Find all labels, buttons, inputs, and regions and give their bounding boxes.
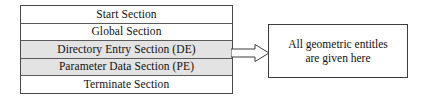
note-box: All geometric entitles are given here: [268, 24, 408, 78]
note-line: All geometric entitles: [288, 37, 388, 51]
section-row-label: Global Section: [91, 26, 161, 38]
table-row[interactable]: Parameter Data Section (PE): [21, 59, 232, 77]
section-row-label: Start Section: [96, 9, 156, 21]
table-row[interactable]: Directory Entry Section (DE): [21, 41, 232, 59]
section-row-label: Terminate Section: [84, 79, 170, 91]
table-row[interactable]: Global Section: [21, 24, 232, 42]
iges-structure-diagram: Start Section Global Section Directory E…: [0, 0, 424, 100]
note-line: are given here: [305, 51, 370, 65]
section-table: Start Section Global Section Directory E…: [20, 5, 233, 94]
connector-arrow: [231, 42, 271, 64]
section-row-label: Directory Entry Section (DE): [57, 44, 196, 56]
right-block-arrow-icon: [231, 42, 271, 64]
table-row[interactable]: Terminate Section: [21, 76, 232, 93]
section-row-label: Parameter Data Section (PE): [59, 61, 194, 73]
table-row[interactable]: Start Section: [21, 6, 232, 24]
